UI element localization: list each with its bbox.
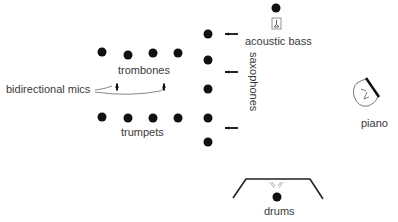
drummer-dot [273, 193, 282, 202]
saxophone-player-dot [204, 114, 213, 123]
saxophone-player-dot [204, 56, 213, 65]
trumpets-label: trumpets [121, 127, 164, 138]
bidirectional-mics-label: bidirectional mics [6, 84, 90, 95]
drum-mics [270, 182, 283, 188]
bass-player-dot [272, 4, 281, 13]
trombone-player-dot [149, 49, 158, 58]
piano-label: piano [361, 118, 388, 129]
bidirectional-mics [95, 84, 166, 95]
stage-diagram [0, 0, 398, 222]
trombone-player-dot [124, 51, 133, 60]
sax-mic-arrows [225, 32, 238, 129]
saxophone-player-dot [204, 138, 213, 147]
drums-section [233, 179, 323, 202]
trombones-label: trombones [118, 65, 170, 76]
trumpet-player-dot [174, 114, 183, 123]
piano-icon [353, 78, 379, 106]
trumpet-player-dot [149, 114, 158, 123]
drums-label: drums [264, 206, 295, 217]
trombone-player-dot [174, 49, 183, 58]
saxophone-player-dot [204, 30, 213, 39]
acoustic-bass-label: acoustic bass [245, 36, 312, 47]
trumpet-player-dot [124, 114, 133, 123]
acoustic-bass-section [272, 4, 282, 30]
trumpet-player-dot [98, 113, 107, 122]
trumpets-section [98, 113, 183, 123]
bass-mic-icon [272, 18, 281, 29]
saxophones-label: saxophones [248, 52, 259, 111]
trombone-player-dot [98, 48, 107, 57]
bidirectional-mic-icon [115, 84, 119, 91]
saxophones-section [204, 30, 213, 147]
mic-leader-line-upper [95, 86, 112, 90]
mic-leader-line-lower [95, 88, 163, 94]
saxophone-player-dot [204, 85, 213, 94]
trombones-section [98, 48, 183, 60]
